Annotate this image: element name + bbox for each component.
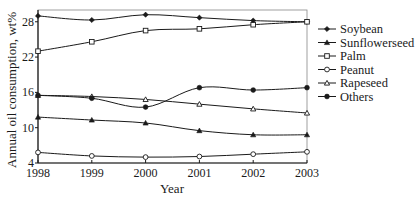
y-tick-label: 22: [22, 50, 34, 64]
legend-item-peanut: Peanut: [318, 63, 375, 77]
series-palm: [36, 19, 310, 53]
legend-item-rapeseed: Rapeseed: [318, 76, 389, 90]
x-tick-label: 2001: [187, 166, 211, 180]
y-axis-title: Annual oil consumption, wt%: [4, 12, 19, 168]
legend-label: Peanut: [340, 63, 375, 77]
legend-item-sunflowerseed: Sunflowerseed: [318, 36, 415, 50]
y-axis: 410162228: [22, 15, 38, 170]
series-sunflowerseed: [35, 115, 309, 137]
x-tick-label: 2000: [134, 166, 158, 180]
legend-label: Rapeseed: [340, 76, 389, 90]
legend-label: Palm: [340, 49, 366, 63]
series-layer: [35, 12, 309, 159]
series-rapeseed: [35, 93, 309, 115]
legend-item-palm: Palm: [318, 49, 366, 63]
y-tick-label: 28: [22, 15, 34, 29]
series-others: [36, 85, 310, 109]
legend: SoybeanSunflowerseedPalmPeanutRapeseedOt…: [318, 22, 415, 104]
y-tick-label: 10: [22, 121, 34, 135]
legend-label: Sunflowerseed: [340, 36, 415, 50]
x-tick-label: 1999: [80, 166, 104, 180]
legend-label: Soybean: [340, 22, 384, 36]
plot-border: [38, 10, 307, 163]
series-soybean: [35, 12, 309, 24]
x-tick-label: 2003: [295, 166, 319, 180]
line-chart: 410162228 199819992000200120022003 Soybe…: [0, 0, 416, 202]
legend-item-others: Others: [318, 90, 373, 104]
series-peanut: [36, 149, 310, 159]
plot-frame: [38, 10, 307, 163]
x-tick-label: 1998: [26, 166, 50, 180]
x-tick-label: 2002: [241, 166, 265, 180]
legend-item-soybean: Soybean: [318, 22, 384, 36]
y-tick-label: 16: [22, 85, 34, 99]
legend-label: Others: [340, 90, 373, 104]
x-axis-title: Year: [160, 181, 185, 196]
